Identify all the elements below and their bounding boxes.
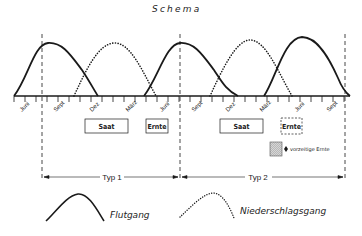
- typ2-label: Typ 2: [248, 173, 268, 182]
- niederschlag-curves: [74, 40, 292, 96]
- legend-flutgang: Flutgang: [110, 210, 150, 220]
- diamond-icon: [284, 146, 288, 152]
- typ1-boxes: Saat Ernte: [85, 119, 168, 133]
- axis-ticks: [14, 96, 344, 102]
- month-label: Dez: [88, 101, 100, 113]
- rain-curve-2: [210, 40, 292, 96]
- flutgang-curves: [14, 37, 350, 96]
- month-label: März: [124, 99, 138, 113]
- early-harvest-label: vorzeitige Ernte: [290, 146, 330, 153]
- arrow-right-icon: [338, 176, 343, 179]
- typ1-label: Typ 1: [102, 173, 122, 182]
- month-label: Sept: [325, 100, 338, 113]
- arrow-left-icon: [182, 176, 187, 179]
- period-arrows: [44, 176, 343, 179]
- typ2-boxes: Saat Ernte vorzeitige Ernte: [220, 118, 330, 156]
- saat-label-typ1: Saat: [98, 123, 114, 131]
- schema-diagram: Schema: [0, 0, 362, 236]
- rain-curve-1: [74, 43, 156, 96]
- month-label: Juni: [293, 101, 305, 113]
- arrow-right-icon: [173, 176, 178, 179]
- flood-curve-3: [264, 37, 350, 96]
- ernte-label-typ2: Ernte: [282, 123, 301, 131]
- month-label: Juni: [158, 101, 170, 113]
- arrow-left-icon: [44, 176, 49, 179]
- month-labels: Juni Sept Dez März Juni Sept Dez März Ju…: [18, 99, 338, 113]
- flood-curve-2: [144, 43, 238, 96]
- month-label: März: [258, 99, 272, 113]
- month-label: Juni: [18, 101, 30, 113]
- diagram-title: Schema: [152, 4, 201, 14]
- saat-label-typ2: Saat: [233, 123, 249, 131]
- legend-solid-curve-icon: [46, 194, 104, 221]
- flood-curve-1: [14, 43, 98, 96]
- legend-niederschlagsgang: Niederschlagsgang: [240, 206, 326, 216]
- early-harvest-marker: [270, 142, 282, 156]
- month-label: Sept: [52, 100, 65, 113]
- legend: Flutgang Niederschlagsgang: [46, 193, 326, 221]
- legend-dotted-curve-icon: [180, 193, 234, 218]
- ernte-label-typ1: Ernte: [147, 123, 166, 131]
- month-label: Sept: [190, 100, 203, 113]
- month-label: Dez: [224, 101, 236, 113]
